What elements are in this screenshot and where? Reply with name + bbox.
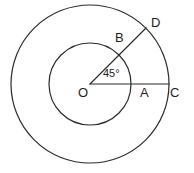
- point-label-a: A: [140, 86, 149, 99]
- angle-measure-label: 45°: [103, 68, 120, 79]
- point-label-b: B: [115, 31, 124, 44]
- geometry-figure: O A C B D 45°: [0, 0, 194, 173]
- geometry-canvas: [0, 0, 194, 173]
- point-label-d: D: [151, 16, 160, 29]
- point-label-c: C: [170, 86, 179, 99]
- point-label-o: O: [78, 86, 88, 99]
